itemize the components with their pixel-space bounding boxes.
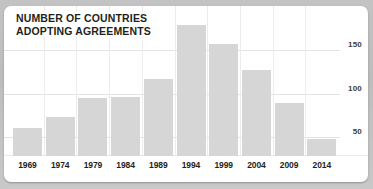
bar-rect-1989: [144, 79, 173, 156]
y-tick-label-150: 150: [348, 40, 362, 49]
bar-rect-1974: [46, 117, 75, 156]
y-tick-label-100: 100: [348, 84, 362, 93]
x-tick-label-1974: 1974: [46, 160, 75, 170]
x-tick-label-2014: 2014: [307, 160, 336, 170]
bar-2009[interactable]: [275, 6, 304, 156]
x-tick-label-1969: 1969: [13, 160, 42, 170]
screenshot-root: NUMBER OF COUNTRIES ADOPTING AGREEMENTS …: [0, 0, 373, 189]
x-tick-label-2004: 2004: [242, 160, 271, 170]
y-tick-label-50: 50: [353, 127, 362, 136]
x-tick-label-1979: 1979: [78, 160, 107, 170]
x-tick-label-1984: 1984: [111, 160, 140, 170]
bar-rect-2009: [275, 103, 304, 156]
bar-1999[interactable]: [209, 6, 238, 156]
x-tick-label-1994: 1994: [177, 160, 206, 170]
bar-2004[interactable]: [242, 6, 271, 156]
x-tick-label-1999: 1999: [209, 160, 238, 170]
bar-rect-1969: [13, 128, 42, 156]
bar-rect-1994: [177, 25, 206, 156]
x-axis-tick-labels: 1969197419791984198919941999200420092014: [13, 160, 340, 176]
bar-2014[interactable]: [307, 6, 336, 156]
chart-card: NUMBER OF COUNTRIES ADOPTING AGREEMENTS …: [4, 6, 368, 182]
bar-chart: NUMBER OF COUNTRIES ADOPTING AGREEMENTS …: [4, 6, 368, 182]
bar-rect-1999: [209, 44, 238, 156]
bar-rect-1979: [78, 98, 107, 156]
x-tick-label-1989: 1989: [144, 160, 173, 170]
bar-1994[interactable]: [177, 6, 206, 156]
chart-title: NUMBER OF COUNTRIES ADOPTING AGREEMENTS: [16, 12, 155, 37]
x-tick-label-2009: 2009: [275, 160, 304, 170]
bar-rect-2004: [242, 70, 271, 156]
bar-rect-1984: [111, 97, 140, 156]
bar-rect-2014: [307, 139, 336, 156]
